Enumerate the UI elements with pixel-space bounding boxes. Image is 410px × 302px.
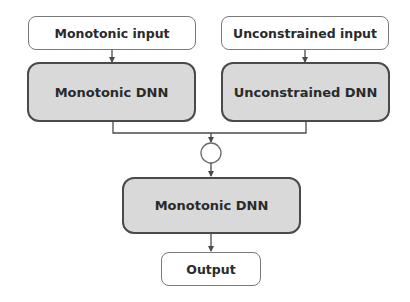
- monotonic-input-label: Monotonic input: [54, 26, 169, 41]
- combine-node-icon: [201, 143, 221, 163]
- unconstrained-input-node: Unconstrained input: [221, 16, 389, 50]
- unconstrained-input-label: Unconstrained input: [233, 26, 377, 41]
- monotonic-input-node: Monotonic input: [28, 16, 196, 50]
- monotonic-dnn-top-node: Monotonic DNN: [27, 62, 196, 122]
- monotonic-dnn-top-label: Monotonic DNN: [55, 85, 169, 100]
- output-node: Output: [161, 252, 261, 286]
- unconstrained-dnn-node: Unconstrained DNN: [221, 62, 390, 122]
- output-label: Output: [186, 262, 235, 277]
- merge-connector: [113, 122, 306, 133]
- monotonic-dnn-bottom-node: Monotonic DNN: [122, 177, 301, 234]
- monotonic-dnn-bottom-label: Monotonic DNN: [155, 198, 269, 213]
- unconstrained-dnn-label: Unconstrained DNN: [234, 85, 378, 100]
